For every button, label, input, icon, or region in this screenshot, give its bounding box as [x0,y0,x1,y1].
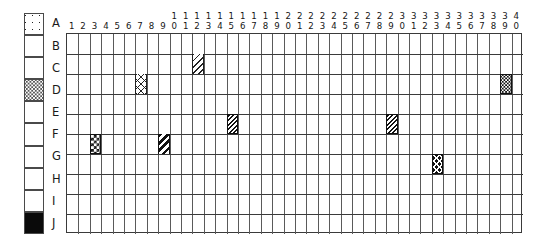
data-grid[interactable] [66,33,522,233]
column-number-ones: 5 [340,22,351,32]
column-number-ones: 5 [226,22,237,32]
legend-label: J [52,218,55,230]
grid-horizontal-line [67,174,523,175]
legend-label: C [52,63,60,75]
column-number-18: 18 [260,12,271,32]
column-number-ones: 3 [431,22,442,32]
column-number-34: 34 [442,12,453,32]
column-number-37: 37 [476,12,487,32]
grid-cell-E29[interactable] [386,114,397,134]
legend-label: I [52,196,55,208]
legend-swatch-a [24,13,44,35]
grid-cell-B12[interactable] [192,54,203,74]
column-number-ones: 6 [351,22,362,32]
column-number-1: 1 [66,12,77,32]
column-number-ones: 0 [169,22,180,32]
legend-swatch-e [24,101,44,123]
grid-horizontal-line [67,134,523,135]
column-number-36: 36 [465,12,476,32]
legend-label: E [52,107,59,119]
legend-label: D [52,85,61,97]
column-number-19: 19 [271,12,282,32]
grid-cell-F3[interactable] [90,134,101,154]
column-number-ones: 0 [283,22,294,32]
column-number-17: 17 [248,12,259,32]
column-number-ones: 0 [511,22,522,32]
row-legend: ABCDEFGHIJ [24,13,68,235]
column-number-ones: 4 [214,22,225,32]
grid-cell-G33[interactable] [432,154,443,174]
grid-horizontal-line [67,154,523,155]
legend-row-g: G [24,146,68,168]
column-number-ones: 6 [123,22,134,32]
column-number-5: 5 [112,12,123,32]
legend-swatch-c [24,57,44,79]
column-number-22: 22 [305,12,316,32]
legend-row-h: H [24,168,68,190]
grid-container [66,33,522,233]
column-number-ones: 2 [305,22,316,32]
column-number-ones: 9 [499,22,510,32]
column-number-15: 15 [226,12,237,32]
legend-row-a: A [24,13,68,35]
legend-swatch-g [24,146,44,168]
column-number-ones: 1 [294,22,305,32]
legend-swatch-i [24,190,44,212]
column-number-30: 30 [397,12,408,32]
legend-row-b: B [24,35,68,57]
column-number-25: 25 [340,12,351,32]
legend-swatch-f [24,123,44,145]
column-number-29: 29 [385,12,396,32]
legend-row-e: E [24,102,68,124]
column-number-7: 7 [134,12,145,32]
column-number-6: 6 [123,12,134,32]
column-number-ones: 8 [146,22,157,32]
column-number-ones: 2 [77,22,88,32]
grid-horizontal-line [67,194,523,195]
column-number-21: 21 [294,12,305,32]
grid-cell-C39[interactable] [500,74,511,94]
column-number-12: 12 [191,12,202,32]
column-number-ones: 6 [237,22,248,32]
legend-swatch-j [24,212,44,234]
column-number-28: 28 [374,12,385,32]
legend-label: B [52,41,60,53]
column-number-ones: 8 [488,22,499,32]
grid-cell-E15[interactable] [227,114,238,134]
column-number-ones: 7 [476,22,487,32]
column-number-35: 35 [454,12,465,32]
column-number-ones: 8 [260,22,271,32]
column-number-ones: 3 [317,22,328,32]
legend-row-i: I [24,191,68,213]
grid-cell-F9[interactable] [158,134,169,154]
column-number-11: 11 [180,12,191,32]
column-number-20: 20 [283,12,294,32]
column-number-ones: 9 [271,22,282,32]
column-number-27: 27 [362,12,373,32]
column-number-ones: 4 [442,22,453,32]
grid-horizontal-line [67,114,523,115]
grid-horizontal-line [67,94,523,95]
column-number-24: 24 [328,12,339,32]
column-number-16: 16 [237,12,248,32]
column-number-ones: 7 [134,22,145,32]
figure-root: ABCDEFGHIJ 1 2 3 4 5 6 7 8 9101112131415… [0,0,541,244]
column-number-33: 33 [431,12,442,32]
legend-swatch-h [24,168,44,190]
legend-label: H [52,174,61,186]
column-number-8: 8 [146,12,157,32]
column-number-40: 40 [511,12,522,32]
column-number-32: 32 [419,12,430,32]
legend-row-f: F [24,124,68,146]
column-number-ones: 5 [112,22,123,32]
column-number-3: 3 [89,12,100,32]
column-number-ones: 9 [157,22,168,32]
grid-horizontal-line [67,214,523,215]
grid-cell-C7[interactable] [135,74,146,94]
column-number-ones: 2 [191,22,202,32]
column-number-ones: 6 [465,22,476,32]
column-number-4: 4 [100,12,111,32]
column-number-ones: 0 [397,22,408,32]
column-number-26: 26 [351,12,362,32]
column-number-14: 14 [214,12,225,32]
